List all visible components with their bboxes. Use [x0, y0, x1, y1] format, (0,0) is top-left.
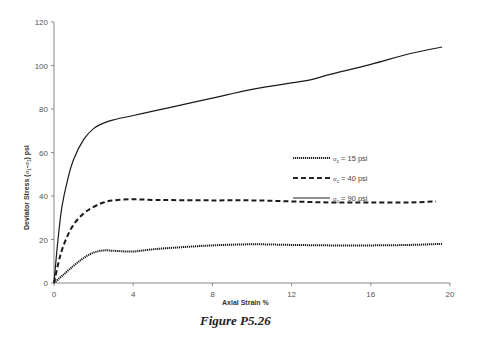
legend: σc = 15 psi σc = 40 psi σc = 90 psi [293, 154, 368, 204]
svg-text:σc = 40 psi: σc = 40 psi [333, 174, 368, 184]
x-ticks: 048121620 [52, 283, 455, 299]
y-tick-label: 20 [39, 236, 48, 245]
stress-strain-chart: 020406080100120 048121620 Axial Strain %… [0, 0, 478, 346]
series-line-dotted [54, 244, 442, 283]
x-tick-label: 16 [366, 290, 375, 299]
series-line-solid [54, 47, 442, 283]
series-line-dashed [54, 199, 436, 283]
x-axis-title: Axial Strain % [222, 299, 269, 306]
x-tick-label: 8 [210, 290, 215, 299]
svg-text:σc = 15 psi: σc = 15 psi [333, 154, 368, 164]
legend-item-40psi: σc = 40 psi [293, 174, 368, 184]
x-tick-label: 20 [446, 290, 455, 299]
x-tick-label: 0 [52, 290, 57, 299]
svg-text:σc = 90 psi: σc = 90 psi [333, 194, 368, 204]
x-tick-label: 4 [131, 290, 136, 299]
y-tick-label: 0 [44, 279, 49, 288]
y-ticks: 020406080100120 [35, 18, 54, 288]
x-tick-label: 12 [287, 290, 296, 299]
y-tick-label: 100 [35, 62, 49, 71]
y-tick-label: 80 [39, 105, 48, 114]
y-tick-label: 120 [35, 18, 49, 27]
data-series [54, 47, 442, 283]
y-axis-title: Deviator Stress (σ1-σ3) psi [23, 145, 32, 230]
y-tick-label: 40 [39, 192, 48, 201]
figure-caption: Figure P5.26 [200, 313, 271, 329]
legend-item-15psi: σc = 15 psi [293, 154, 368, 164]
y-tick-label: 60 [39, 149, 48, 158]
